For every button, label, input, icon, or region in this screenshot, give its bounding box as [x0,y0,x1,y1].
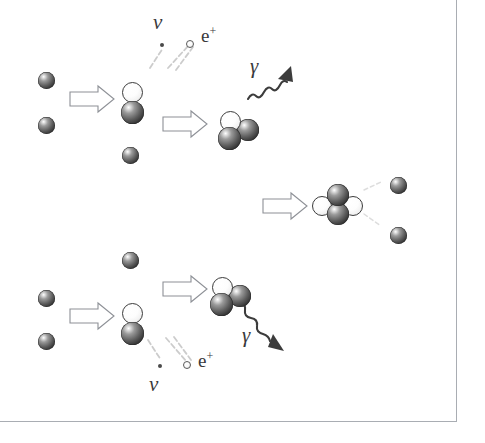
proton-a [38,72,55,89]
proton-c [38,290,55,307]
deuteron-top [118,82,150,132]
deuteron-bottom-neutron [122,303,143,324]
neutrino-label-top: ν [153,12,162,33]
proton-b [38,117,55,134]
frame-bottom-border [0,421,457,422]
positron-particle-top [186,40,194,48]
neutrino-particle-bottom [158,364,162,368]
deuteron-bottom-proton [121,322,144,345]
gamma-label-bottom: γ [242,325,250,346]
positron-particle-bottom [183,361,191,369]
emission-trajectories-top [150,45,193,70]
helium-3-bottom-proton-lower [210,293,233,316]
deuteron-bottom [118,303,150,353]
neutrino-particle-top [160,43,164,47]
emission-trajectories-bottom [148,337,191,362]
third-proton-bottom [122,252,139,269]
deuteron-top-neutron [122,82,143,103]
neutrino-label-bottom: ν [149,374,158,395]
positron-label-bottom: e+ [198,350,213,370]
ejected-proton-lower [390,227,407,244]
capture-arrow-bottom [163,276,207,302]
fusion-arrow-bottom [70,303,114,329]
proton-proton-chain-figure: ν e+ γ ν e+ γ [0,0,485,443]
fusion-arrow-top [70,86,114,112]
ejected-proton-upper [390,177,407,194]
positron-label-top: e+ [201,25,216,45]
positron-label-top-superscript: + [209,24,216,38]
helium-4-proton-bottom [327,203,349,225]
frame-right-border [456,0,457,422]
proton-d [38,333,55,350]
helium-4-proton-top [327,184,349,206]
vector-overlay-layer [0,0,485,443]
positron-label-bottom-superscript: + [206,349,213,363]
helium-3-bottom [206,274,258,322]
gamma-label-top: γ [250,56,258,77]
deuteron-top-proton [121,101,144,124]
helium-3-top-proton-lower [218,127,241,150]
third-proton-top [122,147,139,164]
merge-arrow [263,193,307,219]
capture-arrow-top [163,111,207,137]
helium-4 [312,180,368,228]
helium-3-top [214,108,266,156]
